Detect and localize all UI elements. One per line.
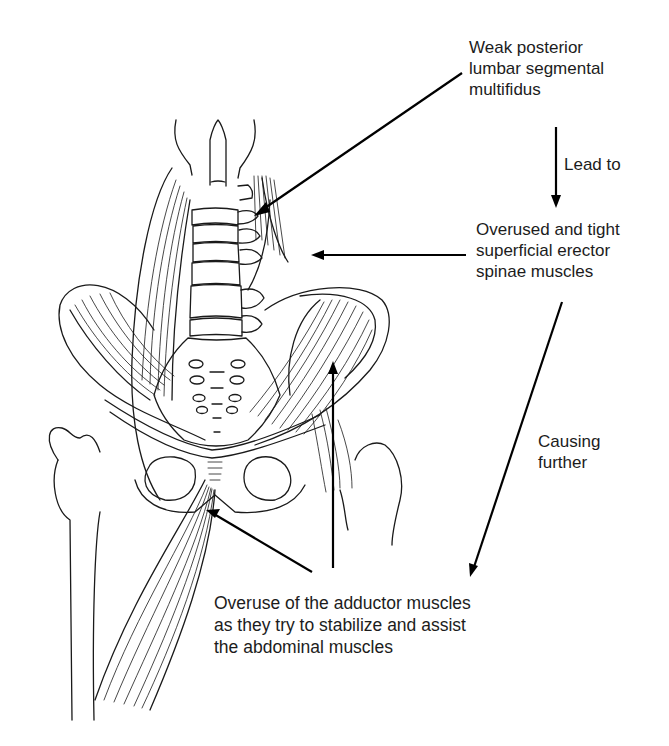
transverse-process <box>241 289 264 308</box>
left-femur <box>49 428 100 720</box>
vertebra-l4 <box>192 262 240 286</box>
pubic-symphysis <box>208 462 222 480</box>
vertebra-s0 <box>190 318 242 336</box>
label-line: superficial erector <box>476 240 620 261</box>
pelvic-brim-inner <box>110 412 325 458</box>
pubic-rami <box>135 480 305 513</box>
arrowhead-abdominal <box>328 361 338 374</box>
label-line: Lead to <box>564 154 621 175</box>
transverse-process <box>238 185 253 200</box>
adductor-medial-edge <box>150 490 215 710</box>
lumbar-spine <box>175 120 264 336</box>
iliac-fossa-edge <box>289 300 320 395</box>
left-obturator-foramen <box>145 457 195 500</box>
label-lead-to: Lead to <box>564 154 621 175</box>
left-femur-lateral <box>54 460 72 720</box>
label-line: the abdominal muscles <box>214 636 471 658</box>
arrowhead-lead-to <box>551 195 561 208</box>
iliac-inner-rim <box>300 294 375 378</box>
transverse-process <box>239 229 260 243</box>
label-line: spinae muscles <box>476 261 620 282</box>
arrowhead-erector-spinae <box>311 250 324 260</box>
label-line: Causing <box>538 431 600 452</box>
label-erector-spinae: Overused and tight superficial erector s… <box>476 219 620 282</box>
diagram-stage: Weak posterior lumbar segmental multifid… <box>0 0 669 746</box>
label-line: as they try to stabilize and assist <box>214 614 471 636</box>
arrow-to-adductor <box>214 514 312 572</box>
left-psoas-edge <box>132 168 172 500</box>
spinous-tip <box>211 181 225 182</box>
right-ilium <box>250 288 389 445</box>
adductor-muscle <box>95 480 215 710</box>
arrow-to-multifidus <box>262 73 462 210</box>
label-weak-multifidus: Weak posterior lumbar segmental multifid… <box>469 37 604 100</box>
left-greater-trochanter <box>49 428 100 460</box>
vertebra-l5 <box>190 285 242 319</box>
right-greater-trochanter <box>355 443 402 545</box>
label-adductor-overuse: Overuse of the adductor muscles as they … <box>214 592 471 658</box>
vertebra-l3 <box>193 243 239 263</box>
arrowhead-multifidus <box>254 202 270 216</box>
right-psoas-erector-fibers <box>248 176 288 290</box>
spinous-process <box>210 120 226 186</box>
arrowhead-causing-further <box>469 563 478 577</box>
label-line: multifidus <box>469 79 604 100</box>
vertebra-l1 <box>192 208 238 225</box>
label-line: further <box>538 452 600 473</box>
label-line: Weak posterior <box>469 37 604 58</box>
spine-right-edge <box>238 120 255 178</box>
sacral-foramina <box>189 360 245 432</box>
right-obturator-foramen <box>244 457 291 500</box>
transverse-process <box>242 316 262 333</box>
transverse-process <box>240 249 262 264</box>
pelvic-brim <box>105 400 320 450</box>
vertebra-l2 <box>193 225 238 244</box>
spine-left-edge <box>175 120 192 175</box>
right-femur-edge <box>340 490 348 530</box>
label-line: lumbar segmental <box>469 58 604 79</box>
label-causing-further: Causing further <box>538 431 600 473</box>
annotation-arrows <box>206 73 562 577</box>
label-line: Overused and tight <box>476 219 620 240</box>
label-line: Overuse of the adductor muscles <box>214 592 471 614</box>
